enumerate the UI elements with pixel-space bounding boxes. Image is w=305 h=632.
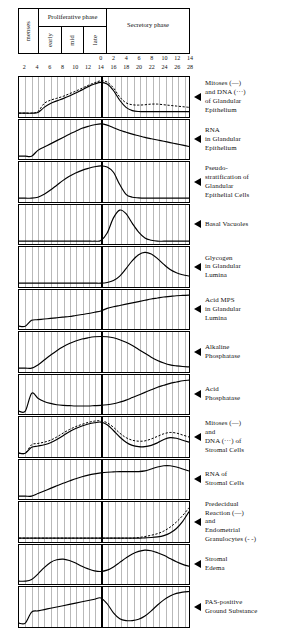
left-arrow-icon <box>194 390 201 398</box>
series-curve <box>19 591 189 624</box>
phase-label-menses: menses <box>25 21 32 41</box>
axis-tick-cycle-day: 28 <box>187 63 193 72</box>
panel-label-text: Acid MPS in Glandular Lumina <box>205 296 241 322</box>
axis-tick-cycle-day: 8 <box>61 63 64 72</box>
series-curve <box>19 336 189 368</box>
panel-label: RNA in Glandular Epithelium <box>194 119 241 161</box>
series-curve <box>19 123 189 156</box>
chart-panel <box>18 459 190 501</box>
axis-tick-cycle-day: 12 <box>85 63 91 72</box>
axis-tick-cycle-day: 4 <box>36 63 39 72</box>
panel-curves <box>19 290 189 330</box>
panel-curves <box>19 587 189 627</box>
panel-label: Mitoses (—) and DNA (···) of Stromal Cel… <box>194 416 244 458</box>
axis-tick-cycle-day: 24 <box>162 63 168 72</box>
axis-secretory-days: 02468101214 <box>18 54 190 63</box>
phase-cell-late: late <box>84 27 106 53</box>
axis-tick-secretory: 0 <box>99 54 102 63</box>
axis-tick-cycle-day: 20 <box>136 63 142 72</box>
axis-tick-cycle-day: 26 <box>174 63 180 72</box>
panel-label: PAS-positive Ground Substance <box>194 586 257 628</box>
panel-curves <box>19 502 189 542</box>
axis-tick-secretory: 2 <box>112 54 115 63</box>
left-arrow-icon <box>194 475 201 483</box>
series-curve <box>19 550 189 581</box>
axis-tick-cycle-day: 16 <box>111 63 117 72</box>
series-curve <box>19 209 189 240</box>
left-arrow-icon <box>194 263 201 271</box>
day-axis: 02468101214 246810121416182022242628 <box>18 54 190 74</box>
panel-curves <box>19 417 189 457</box>
left-arrow-icon <box>194 433 201 441</box>
panel-label-text: Glycogen in Glandular Lumina <box>205 254 241 280</box>
panel-curves <box>19 205 189 245</box>
chart-panel <box>18 161 190 203</box>
panel-label: Predecidual Reaction (—) and Endometrial… <box>194 501 256 543</box>
panel-curves <box>19 247 189 287</box>
panel-label-text: Predecidual Reaction (—) and Endometrial… <box>205 500 256 544</box>
left-arrow-icon <box>194 603 201 611</box>
chart-panel <box>18 204 190 246</box>
axis-tick-cycle-day: 22 <box>149 63 155 72</box>
panel-label: Basal Vacuoles <box>194 204 248 246</box>
series-curve <box>19 421 189 454</box>
series-curve <box>19 512 189 539</box>
series-curve <box>19 422 189 454</box>
panel-label: Mitoses (—) and DNA (···) of Glandular E… <box>194 76 246 118</box>
chart-panel <box>18 246 190 288</box>
panel-label-text: RNA of Stromal Cells <box>205 470 244 488</box>
panel-curves <box>19 375 189 415</box>
left-arrow-icon <box>194 178 201 186</box>
phase-label-proliferative: Proliferative phase <box>39 9 106 27</box>
chart-panel <box>18 76 190 118</box>
panel-label: Glycogen in Glandular Lumina <box>194 246 241 288</box>
axis-tick-secretory: 10 <box>162 54 168 63</box>
series-curve <box>19 81 189 114</box>
axis-tick-cycle-day: 14 <box>98 63 104 72</box>
phase-label-secretory: Secretory phase <box>127 21 169 28</box>
panel-label-text: Mitoses (—) and DNA (···) of Stromal Cel… <box>205 419 244 454</box>
axis-tick-cycle-day: 18 <box>123 63 129 72</box>
series-curve <box>19 295 189 326</box>
left-arrow-icon <box>194 560 201 568</box>
series-curve <box>19 82 189 113</box>
phase-cell-early: early <box>39 27 62 53</box>
panel-label-text: Alkaline Phosphatase <box>205 343 240 361</box>
panel-curves <box>19 120 189 160</box>
axis-tick-secretory: 12 <box>174 54 180 63</box>
panel-label: Stromal Edema <box>194 544 228 586</box>
left-arrow-icon <box>194 135 201 143</box>
axis-tick-secretory: 4 <box>125 54 128 63</box>
panel-label: Alkaline Phosphatase <box>194 331 240 373</box>
phase-label-mid: mid <box>69 35 76 46</box>
left-arrow-icon <box>194 93 201 101</box>
chart-panel <box>18 374 190 416</box>
series-curve <box>19 166 189 198</box>
panel-curves <box>19 545 189 585</box>
left-arrow-icon <box>194 348 201 356</box>
panel-label-text: RNA in Glandular Epithelium <box>205 126 241 152</box>
chart-panel <box>18 586 190 628</box>
axis-tick-secretory: 6 <box>138 54 141 63</box>
axis-tick-cycle-day: 6 <box>48 63 51 72</box>
endometrial-cycle-figure: menses Proliferative phase early mid lat… <box>0 0 305 632</box>
chart-panel <box>18 501 190 543</box>
panel-label-text: Basal Vacuoles <box>205 220 248 229</box>
chart-panel <box>18 416 190 458</box>
panel-label: Acid Phosphatase <box>194 374 240 416</box>
panel-curves <box>19 460 189 500</box>
panel-label-text: Mitoses (—) and DNA (···) of Glandular E… <box>205 79 246 114</box>
phase-label-late: late <box>92 35 99 45</box>
phase-header-table: menses Proliferative phase early mid lat… <box>18 8 190 54</box>
chart-panel <box>18 289 190 331</box>
axis-tick-secretory: 8 <box>150 54 153 63</box>
series-curve <box>19 465 189 496</box>
series-curve <box>19 380 189 412</box>
panel-label: RNA of Stromal Cells <box>194 459 244 501</box>
panel-curves <box>19 162 189 202</box>
axis-tick-cycle-day: 2 <box>23 63 26 72</box>
phase-cell-secretory: Secretory phase <box>107 9 189 53</box>
panel-label: Pseudo- stratification of Glandular Epit… <box>194 161 249 203</box>
phase-cell-menses: menses <box>19 9 39 53</box>
phase-cell-proliferative: Proliferative phase early mid late <box>39 9 107 53</box>
